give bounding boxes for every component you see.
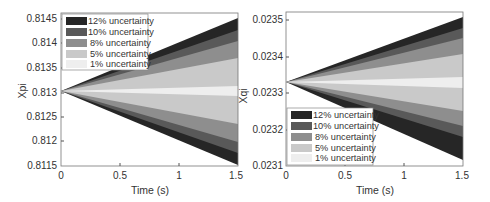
- left-ytick-2: 0.8135: [26, 62, 57, 73]
- right-xtick-2: 1: [401, 170, 407, 181]
- right-chart: 0.0235 0.0234 0.0233 0.0232 0.0231 Xqi 0…: [237, 12, 469, 196]
- legend-swatch-10: [66, 28, 87, 36]
- right-xtick-3: 1.5: [455, 170, 469, 181]
- legend-label-10: 10% uncertainty: [88, 27, 154, 37]
- left-xtick-1: 0.5: [113, 170, 127, 181]
- left-chart: 0.8145 0.814 0.8135 0.813 0.8125 0.812 0…: [16, 13, 243, 196]
- legend-label-5: 5% uncertainty: [315, 143, 376, 153]
- left-legend: 12% uncertainty 10% uncertainty 8% uncer…: [62, 14, 154, 70]
- legend-label-1: 1% uncertainty: [90, 59, 151, 69]
- figure: 0.8145 0.814 0.8135 0.813 0.8125 0.812 0…: [0, 0, 490, 202]
- legend-label-10: 10% uncertainty: [313, 121, 379, 131]
- left-xtick-3: 1.5: [229, 170, 243, 181]
- left-ytick-5: 0.812: [32, 135, 57, 146]
- right-ytick-3: 0.0232: [252, 124, 283, 135]
- legend-swatch-1: [291, 154, 312, 162]
- left-y-label: Xpi: [16, 83, 28, 98]
- left-y-axis: 0.8145 0.814 0.8135 0.813 0.8125 0.812 0…: [26, 13, 64, 171]
- legend-swatch-8: [66, 39, 87, 47]
- left-ytick-3: 0.813: [32, 87, 57, 98]
- legend-label-12: 12% uncertainty: [313, 110, 379, 120]
- right-ytick-4: 0.0231: [252, 160, 283, 171]
- legend-swatch-12: [291, 111, 312, 119]
- right-ytick-1: 0.0234: [252, 51, 283, 62]
- left-xtick-0: 0: [58, 170, 64, 181]
- right-ytick-0: 0.0235: [252, 14, 283, 25]
- right-y-axis: 0.0235 0.0234 0.0233 0.0232 0.0231: [252, 14, 289, 171]
- legend-swatch-1: [66, 60, 87, 68]
- right-x-label: Time (s): [356, 184, 394, 196]
- right-ytick-2: 0.0233: [252, 87, 283, 98]
- right-y-label: Xqi: [237, 88, 249, 103]
- legend-swatch-5: [291, 144, 312, 152]
- left-x-label: Time (s): [131, 184, 169, 196]
- legend-label-8: 8% uncertainty: [315, 132, 376, 142]
- right-xtick-0: 0: [283, 170, 289, 181]
- legend-label-12: 12% uncertainty: [88, 16, 154, 26]
- right-xtick-1: 0.5: [338, 170, 352, 181]
- legend-label-5: 5% uncertainty: [90, 49, 151, 59]
- left-xtick-2: 1: [176, 170, 182, 181]
- legend-swatch-10: [291, 122, 312, 130]
- legend-label-1: 1% uncertainty: [315, 153, 376, 163]
- left-ytick-1: 0.814: [32, 37, 57, 48]
- left-ytick-6: 0.8115: [27, 160, 57, 171]
- left-ytick-0: 0.8145: [26, 13, 57, 24]
- legend-swatch-8: [291, 133, 312, 141]
- right-legend: 12% uncertainty 10% uncertainty 8% uncer…: [287, 108, 379, 165]
- legend-label-8: 8% uncertainty: [90, 38, 151, 48]
- legend-swatch-5: [66, 50, 87, 58]
- legend-swatch-12: [66, 17, 87, 25]
- left-ytick-4: 0.8125: [26, 111, 57, 122]
